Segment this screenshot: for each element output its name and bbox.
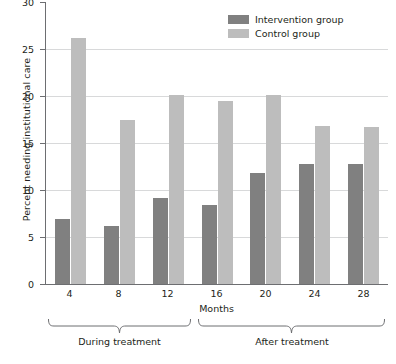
x-tick-label-4: 4	[45, 288, 94, 299]
legend-swatch-intervention	[228, 15, 249, 24]
x-tick-labels: 4 8 12 16 20 24 28	[45, 288, 388, 299]
x-tick-label-16: 16	[192, 288, 241, 299]
y-tick-label-25: 25	[8, 44, 34, 55]
legend-item-intervention: Intervention group	[228, 14, 344, 25]
bar-intervention-24	[299, 164, 314, 284]
legend-item-control: Control group	[228, 28, 344, 39]
legend-label-intervention: Intervention group	[255, 14, 344, 25]
bar-intervention-8	[104, 226, 119, 284]
plot-area	[45, 2, 388, 285]
bar-group-8	[95, 2, 144, 284]
bar-control-24	[315, 126, 330, 284]
bar-intervention-4	[55, 219, 70, 284]
bar-control-16	[218, 101, 233, 284]
bar-intervention-20	[250, 173, 265, 284]
bar-control-8	[120, 120, 135, 284]
chart-legend: Intervention group Control group	[228, 14, 344, 42]
bars-container	[46, 2, 388, 284]
y-tick-label-10: 10	[8, 185, 34, 196]
x-tick-label-28: 28	[339, 288, 388, 299]
x-tick-label-8: 8	[94, 288, 143, 299]
legend-swatch-control	[228, 29, 249, 38]
bracket-after-treatment	[197, 318, 387, 334]
bar-chart-figure: Percent needing institutional care 30 25…	[0, 0, 396, 364]
bar-group-4	[46, 2, 95, 284]
bar-control-20	[266, 95, 281, 284]
bar-intervention-16	[202, 205, 217, 284]
x-tick-label-12: 12	[143, 288, 192, 299]
bar-control-12	[169, 95, 184, 284]
bar-control-28	[364, 127, 379, 284]
bar-intervention-12	[153, 198, 168, 284]
bar-group-20	[241, 2, 290, 284]
bracket-label-during-treatment: During treatment	[47, 336, 192, 347]
y-tick-label-0: 0	[8, 279, 34, 290]
bar-group-16	[193, 2, 242, 284]
y-tick-label-30: 30	[8, 0, 34, 8]
bar-intervention-28	[348, 164, 363, 284]
y-tick-label-15: 15	[8, 138, 34, 149]
bar-control-4	[71, 38, 86, 284]
bar-group-28	[339, 2, 388, 284]
y-tick-label-5: 5	[8, 232, 34, 243]
bar-group-12	[144, 2, 193, 284]
bracket-label-after-treatment: After treatment	[197, 336, 387, 347]
bar-group-24	[290, 2, 339, 284]
legend-label-control: Control group	[255, 28, 320, 39]
x-tick-label-20: 20	[241, 288, 290, 299]
bracket-during-treatment	[47, 318, 192, 334]
x-tick-label-24: 24	[290, 288, 339, 299]
y-tick-label-20: 20	[8, 91, 34, 102]
x-axis-title: Months	[45, 303, 388, 314]
